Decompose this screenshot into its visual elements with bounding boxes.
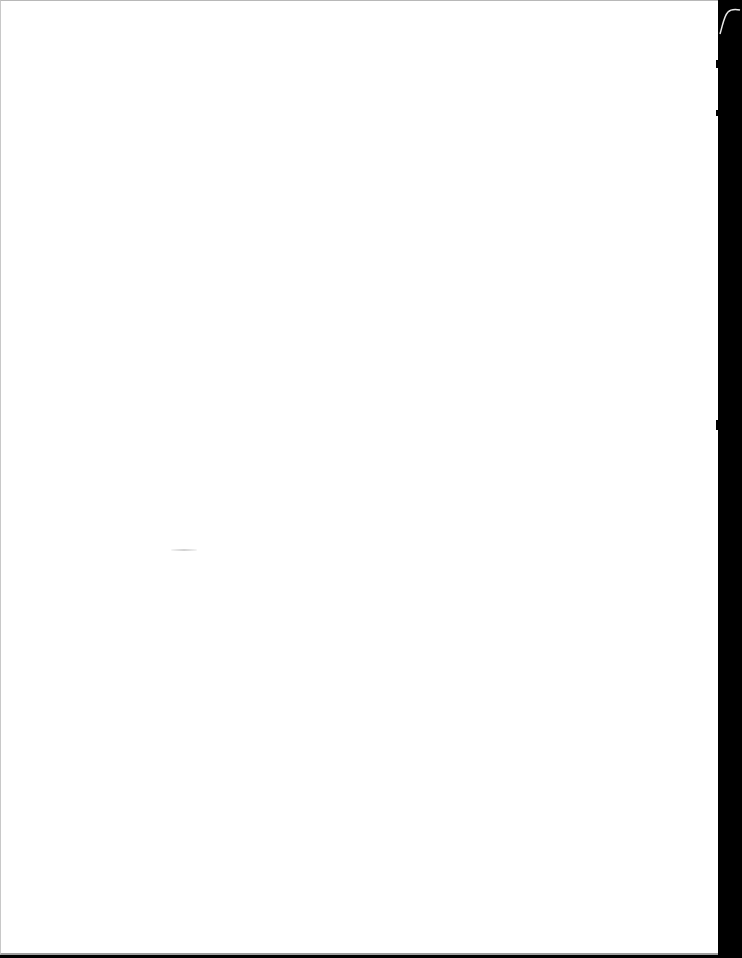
page-curl-icon: [718, 6, 742, 36]
scanner-background-strip: [718, 0, 742, 958]
edge-irregularity: [716, 420, 719, 430]
edge-irregularity: [716, 110, 719, 116]
blank-page: [0, 0, 718, 955]
scan-smudge: [171, 549, 197, 551]
edge-irregularity: [716, 60, 719, 68]
